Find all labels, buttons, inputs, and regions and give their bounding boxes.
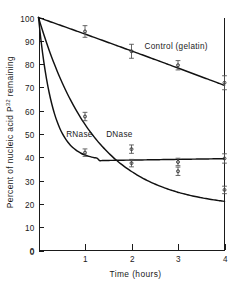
y-tick-label: 60 [25,108,35,117]
y-tick-label: 30 [25,178,35,187]
x-axis-title: Time (hours) [110,269,162,279]
y-tick-label: 80 [25,61,35,70]
series-label-rnase: RNase [66,130,93,139]
y-axis-title-tail: remaining [5,56,15,99]
y-tick-label: 20 [25,201,35,210]
series-label-control-gelatin: Control (gelatin) [145,42,208,51]
x-tick-label: 2 [130,255,135,264]
y-tick-label: 40 [25,154,35,163]
x-tick-label: 4 [223,255,228,264]
y-axis-title: Percent of nucleic acid P32 remaining [5,56,15,208]
y-axis-title-main: Percent of nucleic acid P [5,106,15,208]
figure-container: 0102030405060708090100 01234 Control (ge… [0,0,246,281]
x-tick-label: 0 [30,247,35,256]
y-tick-label: 10 [25,224,35,233]
chart-background [0,0,246,281]
x-tick-label: 1 [83,255,88,264]
series-label-dnase: DNase [106,130,133,139]
nucleic-acid-decay-chart: 0102030405060708090100 01234 Control (ge… [0,0,246,281]
y-tick-label: 50 [25,131,35,140]
y-axis-title-superscript: 32 [5,99,11,106]
y-tick-label: 100 [20,15,35,24]
y-tick-label: 70 [25,84,35,93]
y-tick-label: 90 [25,38,35,47]
x-tick-label: 3 [176,255,181,264]
svg-text:Percent of nucleic acid P32 re: Percent of nucleic acid P32 remaining [5,56,15,208]
